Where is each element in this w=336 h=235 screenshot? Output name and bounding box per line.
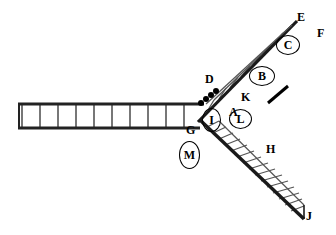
lower-right-track-rungs <box>207 121 304 211</box>
lower-right-rail-main <box>200 120 304 219</box>
diagram-canvas: A B C D E F G H I J K L M <box>0 0 336 235</box>
label-C: C <box>276 35 300 55</box>
label-H: H <box>266 143 275 155</box>
label-G: G <box>186 124 195 136</box>
label-D: D <box>205 73 214 85</box>
label-J: J <box>306 210 312 222</box>
label-M: M <box>179 141 200 169</box>
lower-right-track <box>200 120 304 219</box>
label-I: I <box>202 108 221 132</box>
label-F: F <box>317 27 324 39</box>
point-marker-dot <box>203 96 209 102</box>
point-marker-dot <box>213 88 219 94</box>
scale-bar <box>268 86 288 103</box>
horizontal-track-rungs <box>22 104 184 128</box>
label-L: L <box>229 109 252 129</box>
label-B: B <box>249 66 275 86</box>
label-K: K <box>241 91 250 103</box>
point-marker-dot <box>208 92 214 98</box>
point-marker-dot <box>198 100 204 106</box>
label-E: E <box>297 11 305 23</box>
horizontal-track <box>18 104 204 128</box>
